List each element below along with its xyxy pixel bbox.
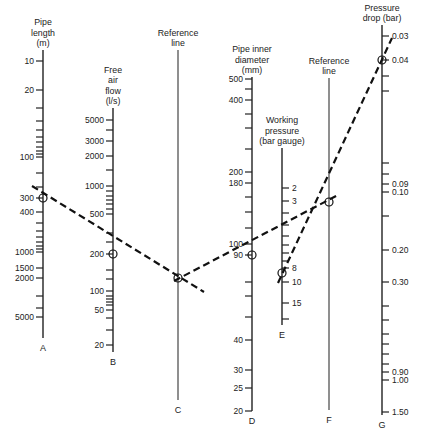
- tick-label: 200: [90, 249, 104, 259]
- tick-label: 180: [229, 178, 243, 188]
- tick-label: 8: [292, 263, 297, 273]
- tick-label: 100: [20, 152, 34, 162]
- axis-title-line: air: [108, 75, 118, 85]
- axis-title-line: line: [322, 66, 336, 76]
- axis-C: ReferencelineC: [158, 28, 199, 416]
- axis-title-line: line: [171, 38, 185, 48]
- tick-label: 0.04: [392, 55, 409, 65]
- tick-label: 15: [292, 298, 302, 308]
- axis-title-line: (m): [36, 38, 49, 48]
- tick-label: 2: [292, 183, 297, 193]
- axis-title-line: Free: [104, 65, 122, 75]
- tick-label: 90: [234, 250, 244, 260]
- tick-label: 0.03: [392, 31, 409, 41]
- axis-title-line: Reference: [158, 28, 199, 38]
- axis-title-line: Reference: [309, 56, 350, 66]
- tick-label: 0.30: [392, 277, 409, 287]
- tick-label: 5000: [15, 312, 34, 322]
- tick-label: 10: [292, 277, 302, 287]
- axis-A: Pipelength(m)102010030040010001500200050…: [15, 17, 55, 353]
- axis-B: Freeairflow(l/s)500030002000100050020010…: [85, 65, 122, 368]
- axis-title-line: (mm): [242, 65, 263, 75]
- axis-letter: D: [249, 416, 256, 426]
- tick-label: 400: [20, 207, 34, 217]
- axis-letter: A: [40, 343, 46, 353]
- axis-title-line: length: [31, 28, 55, 38]
- solution-lines: [32, 38, 392, 292]
- tick-label: 1000: [15, 247, 34, 257]
- axis-title-line: pressure: [265, 126, 299, 136]
- axis-D: Pipe innerdiameter(mm)500400200180100904…: [229, 44, 272, 426]
- tick-label: 50: [95, 305, 105, 315]
- axis-title-line: (l/s): [106, 96, 121, 106]
- tick-label: 400: [229, 95, 243, 105]
- tick-label: 20: [234, 406, 244, 416]
- axis-title-line: flow: [105, 86, 121, 96]
- nomogram-chart: Pipelength(m)102010030040010001500200050…: [0, 0, 422, 441]
- axis-letter: B: [110, 357, 116, 367]
- axis-letter: F: [326, 415, 332, 425]
- tick-label: 5000: [85, 115, 104, 125]
- axis-title-line: drop (bar): [363, 13, 402, 23]
- tick-label: 30: [234, 365, 244, 375]
- tick-label: 500: [90, 209, 104, 219]
- tick-label: 1.00: [392, 375, 409, 385]
- axis-title-line: Working: [266, 115, 298, 125]
- axis-title-line: Pressure: [364, 3, 399, 13]
- axis-E: Workingpressure(bar gauge)2381015E: [259, 115, 305, 340]
- tick-label: 2000: [85, 151, 104, 161]
- axes-layer: Pipelength(m)102010030040010001500200050…: [15, 3, 409, 431]
- tick-label: 1500: [15, 263, 34, 273]
- tick-label: 1.50: [392, 407, 409, 417]
- tick-label: 2000: [15, 273, 34, 283]
- tick-label: 100: [90, 286, 104, 296]
- axis-letter: E: [279, 330, 285, 340]
- axis-G: Pressuredrop (bar)0.030.040.090.100.200.…: [363, 3, 409, 431]
- axis-letter: C: [175, 405, 182, 415]
- tick-label: 40: [234, 335, 244, 345]
- tick-label: 500: [229, 74, 243, 84]
- axis-title-line: Pipe inner: [232, 44, 272, 54]
- axis-title-line: Pipe: [34, 17, 52, 27]
- tick-label: 0.20: [392, 245, 409, 255]
- tick-label: 20: [95, 340, 105, 350]
- tick-label: 1000: [85, 181, 104, 191]
- tick-label: 25: [234, 383, 244, 393]
- tick-label: 0.10: [392, 187, 409, 197]
- tick-label: 10: [25, 56, 35, 66]
- tick-label: 3000: [85, 136, 104, 146]
- tick-label: 20: [25, 85, 35, 95]
- axis-F: ReferencelineF: [309, 56, 350, 426]
- tick-label: 300: [20, 193, 34, 203]
- tick-label: 3: [292, 196, 297, 206]
- axis-title-line: (bar gauge): [259, 136, 305, 146]
- axis-title-line: diameter: [235, 55, 269, 65]
- axis-letter: G: [378, 420, 385, 430]
- tick-label: 200: [229, 167, 243, 177]
